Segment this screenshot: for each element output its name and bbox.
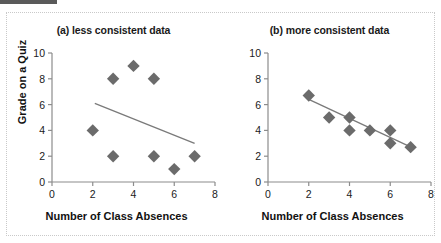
trend-line	[95, 103, 195, 143]
y-tick-label: 10	[249, 47, 261, 59]
x-tick-label: 8	[212, 188, 218, 200]
panel-b: (b) more consistent data Number of Class…	[222, 12, 437, 236]
data-point-marker	[323, 111, 335, 123]
y-tick-label: 8	[39, 73, 45, 85]
panel-a-plot: 024681002468	[6, 12, 221, 236]
y-tick-label: 10	[33, 47, 45, 59]
data-point-marker	[168, 163, 180, 175]
data-point-marker	[188, 150, 200, 162]
x-tick-label: 2	[90, 188, 96, 200]
data-point-marker	[107, 150, 119, 162]
data-point-marker	[404, 141, 416, 153]
y-tick-label: 0	[255, 176, 261, 188]
data-point-marker	[303, 89, 315, 101]
figure-root: (a) less consistent data Grade on a Quiz…	[0, 0, 441, 243]
x-tick-label: 0	[265, 188, 271, 200]
data-point-marker	[148, 150, 160, 162]
y-tick-label: 8	[255, 73, 261, 85]
data-point-marker	[87, 124, 99, 136]
data-point-marker	[343, 124, 355, 136]
y-tick-label: 0	[39, 176, 45, 188]
y-tick-label: 2	[255, 150, 261, 162]
panel-a: (a) less consistent data Grade on a Quiz…	[6, 12, 221, 236]
y-tick-label: 4	[39, 124, 45, 136]
panel-b-plot: 024681002468	[222, 12, 437, 236]
data-point-marker	[384, 124, 396, 136]
data-point-marker	[107, 73, 119, 85]
top-bar-fragment	[0, 0, 57, 4]
y-tick-label: 2	[39, 150, 45, 162]
data-point-marker	[127, 60, 139, 72]
x-tick-label: 0	[49, 188, 55, 200]
x-tick-label: 2	[306, 188, 312, 200]
x-tick-label: 4	[131, 188, 137, 200]
y-tick-label: 4	[255, 124, 261, 136]
data-point-marker	[148, 73, 160, 85]
y-tick-label: 6	[255, 99, 261, 111]
x-tick-label: 4	[347, 188, 353, 200]
x-tick-label: 6	[171, 188, 177, 200]
x-tick-label: 8	[428, 188, 434, 200]
y-tick-label: 6	[39, 99, 45, 111]
trend-line	[309, 99, 414, 148]
x-tick-label: 6	[387, 188, 393, 200]
data-point-marker	[343, 111, 355, 123]
